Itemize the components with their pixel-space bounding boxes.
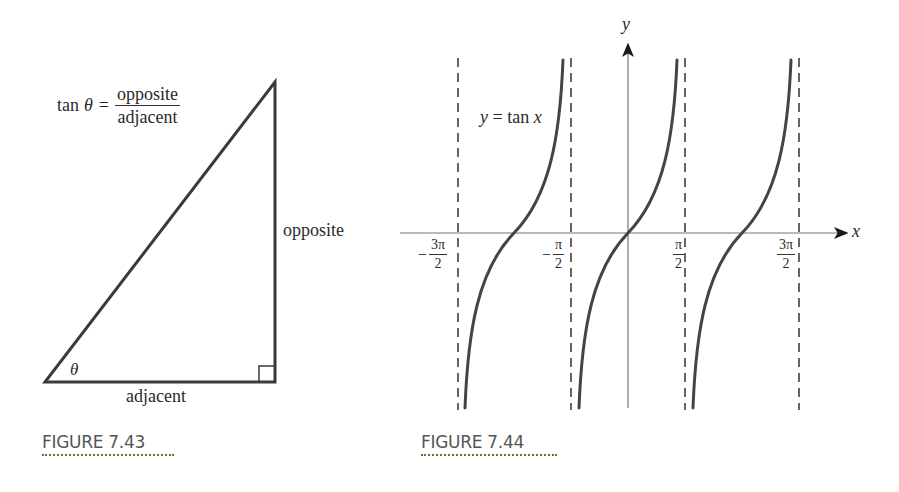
- tick-neg-3pi-2: − 3π2: [418, 238, 447, 271]
- curve-label-y: y: [480, 107, 488, 127]
- curve-label-x: x: [534, 107, 542, 127]
- tick-neg-pi-2: − π2: [542, 238, 564, 271]
- curve-label: y = tan x: [480, 107, 542, 128]
- y-axis-label: y: [622, 14, 630, 35]
- caption-figure-7-44: FIGURE 7.44: [421, 432, 524, 452]
- caption-underline: [421, 454, 557, 456]
- tick-pi-2: π2: [673, 238, 684, 271]
- tan-graph: [0, 0, 899, 492]
- x-axis-label: x: [852, 221, 860, 242]
- curve-label-eq: = tan: [488, 107, 534, 127]
- tick-3pi-2: 3π2: [777, 238, 795, 271]
- tan-branch-right: [693, 60, 791, 408]
